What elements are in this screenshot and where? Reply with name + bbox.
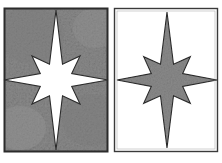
star-pair-plate	[0, 0, 222, 163]
left-panel	[0, 7, 122, 152]
figure-root	[0, 0, 222, 163]
right-panel	[115, 9, 218, 152]
